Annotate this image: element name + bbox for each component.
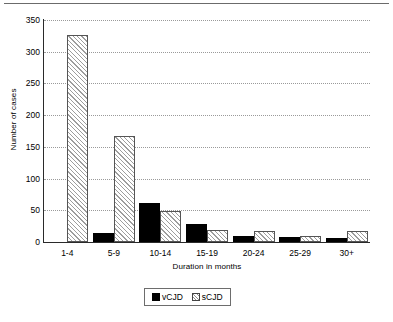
y-tick-label: 50 — [31, 205, 40, 215]
bars-layer — [44, 20, 370, 242]
legend-entry-vcjd: vCJD — [152, 292, 183, 302]
x-tick-label: 5-9 — [108, 248, 120, 258]
x-tick-label: 20-24 — [243, 248, 265, 258]
bar-group — [93, 20, 135, 242]
bar-vcjd-10-14 — [139, 203, 160, 242]
bar-scjd-30+ — [347, 231, 368, 242]
bar-vcjd-30+ — [326, 238, 347, 242]
bar-group — [139, 20, 181, 242]
legend-label: sCJD — [202, 292, 223, 302]
bar-group — [326, 20, 368, 242]
plot-area: 050100150200250300350 — [44, 20, 370, 242]
y-tick-label: 200 — [26, 110, 40, 120]
legend-swatch-vcjd — [152, 293, 160, 301]
bar-scjd-1-4 — [67, 35, 88, 242]
bar-group — [279, 20, 321, 242]
bar-vcjd-15-19 — [186, 224, 207, 242]
x-tick-label: 10-14 — [150, 248, 172, 258]
y-tick-label: 250 — [26, 78, 40, 88]
bar-scjd-25-29 — [300, 236, 321, 242]
x-axis-title: Duration in months — [44, 262, 370, 271]
bar-vcjd-25-29 — [279, 237, 300, 242]
y-tick-label: 100 — [26, 174, 40, 184]
top-horizontal-rule — [4, 3, 389, 4]
bar-scjd-15-19 — [207, 230, 228, 242]
bar-group — [46, 20, 88, 242]
bar-group — [186, 20, 228, 242]
bar-group — [233, 20, 275, 242]
x-axis-line — [43, 242, 370, 243]
x-tick-label: 15-19 — [196, 248, 218, 258]
x-tick-label: 30+ — [339, 248, 353, 258]
bar-chart-figure: Number of cases 050100150200250300350 1-… — [0, 0, 393, 322]
bar-vcjd-5-9 — [93, 233, 114, 242]
y-tick-label: 150 — [26, 142, 40, 152]
x-tick-label: 1-4 — [61, 248, 73, 258]
legend-swatch-scjd — [192, 293, 200, 301]
chart-legend: vCJDsCJD — [144, 288, 231, 306]
x-tick-label: 25-29 — [289, 248, 311, 258]
y-axis-title: Number of cases — [9, 60, 18, 180]
bar-scjd-10-14 — [160, 211, 181, 242]
bar-scjd-20-24 — [254, 231, 275, 242]
y-tick-label: 0 — [35, 237, 40, 247]
bar-scjd-5-9 — [114, 136, 135, 242]
legend-entry-scjd: sCJD — [192, 292, 223, 302]
y-tick-label: 300 — [26, 47, 40, 57]
bar-vcjd-20-24 — [233, 236, 254, 242]
y-tick-label: 350 — [26, 15, 40, 25]
legend-label: vCJD — [162, 292, 183, 302]
